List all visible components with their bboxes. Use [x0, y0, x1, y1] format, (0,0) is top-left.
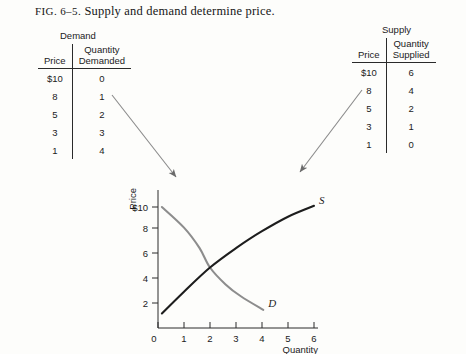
chart-svg: $10 8 6 4 2 0 1 2 3 4 5 6 Price Quantity: [120, 178, 330, 354]
demand-price-cell: 3: [38, 123, 72, 141]
table-row: 8 1: [38, 87, 131, 105]
supply-quantity-cell: 4: [386, 81, 435, 99]
y-tick-label: 2: [143, 298, 148, 309]
supply-header-quantity: Quantity Supplied: [386, 38, 435, 63]
table-header-row: Price Quantity Supplied: [352, 38, 436, 63]
supply-curve-label: S: [319, 194, 325, 206]
supply-quantity-cell: 2: [386, 99, 435, 117]
table-row: 5 2: [352, 99, 436, 117]
supply-table: Price Quantity Supplied $10 6 8 4 5: [352, 38, 436, 153]
demand-quantity-cell: 4: [72, 141, 131, 159]
demand-price-cell: $10: [38, 69, 72, 88]
supply-demand-chart: $10 8 6 4 2 0 1 2 3 4 5 6 Price Quantity: [120, 178, 330, 354]
demand-header-quantity-line1: Quantity: [79, 44, 125, 55]
table-row: $10 6: [352, 63, 436, 82]
demand-quantity-cell: 3: [72, 123, 131, 141]
demand-header-quantity-line2: Demanded: [79, 55, 125, 66]
supply-price-cell: 5: [352, 99, 386, 117]
figure-caption: FIG. 6–5. Supply and demand determine pr…: [35, 4, 275, 19]
table-row: 3 3: [38, 123, 131, 141]
x-tick-label: 0: [151, 333, 156, 344]
demand-price-cell: 1: [38, 141, 72, 159]
x-tick-label: 5: [285, 333, 290, 344]
y-tick-label: 6: [143, 248, 148, 259]
demand-price-cell: 5: [38, 105, 72, 123]
demand-header-quantity: Quantity Demanded: [72, 44, 131, 69]
demand-table-title: Demand: [60, 30, 96, 41]
x-tick-label: 4: [259, 333, 264, 344]
figure-number: FIG. 6–5.: [35, 5, 81, 17]
demand-header-price: Price: [38, 44, 72, 69]
table-row: 1 0: [352, 135, 436, 153]
demand-quantity-cell: 0: [72, 69, 131, 88]
demand-curve: [162, 207, 263, 310]
supply-quantity-cell: 6: [386, 63, 435, 82]
supply-price-cell: 1: [352, 135, 386, 153]
y-tick-label: 4: [143, 273, 148, 284]
supply-curve: [162, 206, 314, 314]
y-axis-title: Price: [127, 188, 138, 210]
figure-caption-text: Supply and demand determine price.: [84, 4, 274, 18]
table-header-row: Price Quantity Demanded: [38, 44, 131, 69]
table-row: $10 0: [38, 69, 131, 88]
x-tick-label: 3: [233, 333, 238, 344]
table-row: 8 4: [352, 81, 436, 99]
supply-price-cell: 3: [352, 117, 386, 135]
x-tick-label: 1: [181, 333, 186, 344]
supply-header-price: Price: [352, 38, 386, 63]
supply-table-title: Supply: [382, 24, 411, 35]
x-tick-label: 2: [207, 333, 212, 344]
table-row: 1 4: [38, 141, 131, 159]
table-row: 5 2: [38, 105, 131, 123]
supply-header-quantity-line2: Supplied: [393, 49, 430, 60]
demand-quantity-cell: 2: [72, 105, 131, 123]
demand-price-cell: 8: [38, 87, 72, 105]
supply-header-quantity-line1: Quantity: [393, 38, 430, 49]
y-tick-label: 8: [143, 223, 148, 234]
demand-curve-label: D: [267, 297, 276, 309]
table-row: 3 1: [352, 117, 436, 135]
supply-price-cell: $10: [352, 63, 386, 82]
supply-quantity-cell: 0: [386, 135, 435, 153]
supply-quantity-cell: 1: [386, 117, 435, 135]
demand-quantity-cell: 1: [72, 87, 131, 105]
x-tick-label: 6: [311, 333, 316, 344]
x-axis-title: Quantity: [283, 344, 319, 354]
demand-table: Price Quantity Demanded $10 0 8 1 5: [38, 44, 131, 159]
supply-price-cell: 8: [352, 81, 386, 99]
figure-page: FIG. 6–5. Supply and demand determine pr…: [0, 0, 466, 354]
